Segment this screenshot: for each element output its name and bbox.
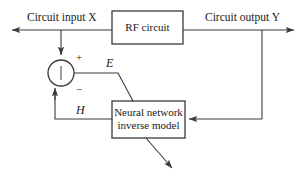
neural-network-label-line2: inverse model bbox=[112, 119, 185, 132]
error-signal-line bbox=[74, 73, 133, 101]
block-diagram: RF circuit Neural network inverse model … bbox=[0, 0, 306, 172]
error-signal-label: E bbox=[106, 57, 113, 69]
rf-circuit-label-text: RF circuit bbox=[112, 21, 183, 34]
neural-network-label: Neural network inverse model bbox=[112, 106, 185, 131]
circuit-input-label: Circuit input X bbox=[27, 12, 97, 24]
feedback-signal-label: H bbox=[76, 104, 85, 116]
circuit-output-label: Circuit output Y bbox=[205, 12, 280, 24]
neural-network-label-line1: Neural network bbox=[112, 106, 185, 119]
junction-minus-sign: − bbox=[76, 84, 82, 95]
junction-plus-sign: + bbox=[76, 52, 82, 63]
neural-network-output-arrow bbox=[146, 138, 172, 168]
rf-circuit-label: RF circuit bbox=[112, 21, 183, 34]
